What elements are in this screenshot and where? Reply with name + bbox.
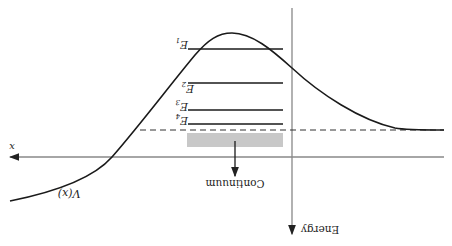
continuum-label: Continuum	[205, 178, 264, 190]
label-e1: E1	[176, 36, 190, 51]
x-axis-label: x	[9, 142, 15, 153]
potential-curve	[10, 33, 444, 201]
potential-well-diagram: E1 E2 E3 E4 x V(x) Continuum Energy	[0, 0, 452, 246]
label-e4: E4	[176, 112, 190, 127]
potential-label: V(x)	[58, 187, 81, 200]
energy-axis-label: Energy	[301, 224, 339, 236]
label-e2: E2	[181, 80, 195, 95]
label-e3: E3	[175, 98, 189, 113]
